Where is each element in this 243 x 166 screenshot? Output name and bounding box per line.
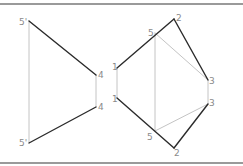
lbl-2-top: 2 [176, 13, 182, 23]
lbl-2-bot: 2 [174, 148, 180, 158]
edge-line-p2_top-p3_top [174, 19, 208, 80]
edge-line-p5prime_bot-p4_bot [29, 107, 96, 143]
construction-line-p5_bot-p3_bot [155, 104, 208, 131]
lbl-5-bot: 5 [147, 132, 153, 142]
projection-drawing: 5'5'4411552233 [0, 0, 243, 166]
lbl-3-top: 3 [209, 76, 215, 86]
edge-line-p1_top-p2_top [117, 19, 174, 68]
lbl-5-top: 5 [148, 28, 154, 38]
lbl-5prime-bot: 5' [19, 138, 27, 148]
diagram-canvas: 5'5'4411552233 [0, 0, 243, 166]
construction-lines [29, 21, 208, 143]
lbl-4-top: 4 [98, 70, 104, 80]
lbl-3-bot: 3 [209, 98, 215, 108]
edge-line-p2_bot-p3_bot [174, 104, 208, 148]
edge-line-p5prime_top-p4_top [29, 21, 96, 75]
lbl-4-bot: 4 [98, 102, 104, 112]
object-edges [29, 19, 208, 148]
lbl-5prime-top: 5' [19, 17, 27, 27]
lbl-1-top: 1 [112, 62, 118, 72]
lbl-1-bot: 1 [112, 94, 118, 104]
construction-line-p5_top-p3_top [155, 33, 208, 80]
edge-line-p1_bot-p2_bot [117, 98, 174, 148]
